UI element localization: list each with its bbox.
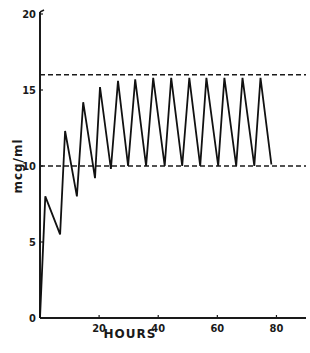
series-line-concentration — [40, 78, 271, 318]
chart: 0510152020406080 HOURS mcg/ml — [0, 0, 310, 353]
y-tick-label: 0 — [29, 312, 36, 325]
y-tick-label: 15 — [22, 84, 36, 97]
y-axis-cap — [40, 10, 44, 12]
x-axis-title: HOURS — [104, 327, 157, 341]
y-axis-title: mcg/ml — [11, 138, 25, 193]
y-tick-label: 5 — [29, 236, 36, 249]
x-tick-label: 80 — [270, 322, 284, 335]
x-tick-label: 60 — [210, 322, 224, 335]
y-tick-label: 20 — [22, 8, 36, 21]
